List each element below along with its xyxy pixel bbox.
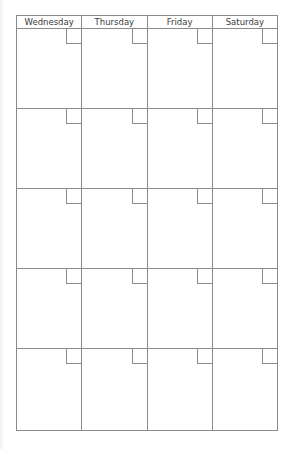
day-cell[interactable] — [17, 109, 82, 189]
week-row-5 — [17, 349, 278, 431]
day-cell[interactable] — [212, 109, 277, 189]
date-number-box[interactable] — [197, 189, 212, 204]
day-header-saturday: Saturday — [212, 16, 277, 29]
date-number-box[interactable] — [132, 109, 147, 124]
date-number-box[interactable] — [262, 109, 277, 124]
day-cell[interactable] — [17, 269, 82, 349]
date-number-box[interactable] — [66, 269, 81, 284]
week-row-4 — [17, 269, 278, 349]
day-cell[interactable] — [82, 109, 147, 189]
page-edge-shadow — [0, 0, 4, 449]
day-header-friday: Friday — [147, 16, 212, 29]
day-cell[interactable] — [147, 109, 212, 189]
day-cell[interactable] — [17, 349, 82, 431]
day-cell[interactable] — [147, 29, 212, 109]
day-cell[interactable] — [212, 349, 277, 431]
day-cell[interactable] — [17, 189, 82, 269]
date-number-box[interactable] — [197, 269, 212, 284]
week-row-2 — [17, 109, 278, 189]
date-number-box[interactable] — [66, 349, 81, 364]
day-cell[interactable] — [212, 269, 277, 349]
date-number-box[interactable] — [262, 269, 277, 284]
date-number-box[interactable] — [197, 29, 212, 44]
date-number-box[interactable] — [262, 349, 277, 364]
week-row-1 — [17, 29, 278, 109]
day-header-thursday: Thursday — [82, 16, 147, 29]
date-number-box[interactable] — [132, 189, 147, 204]
day-cell[interactable] — [82, 189, 147, 269]
day-cell[interactable] — [82, 29, 147, 109]
day-cell[interactable] — [82, 349, 147, 431]
date-number-box[interactable] — [197, 349, 212, 364]
day-cell[interactable] — [212, 29, 277, 109]
date-number-box[interactable] — [132, 349, 147, 364]
date-number-box[interactable] — [66, 29, 81, 44]
date-number-box[interactable] — [132, 29, 147, 44]
day-cell[interactable] — [147, 349, 212, 431]
week-row-3 — [17, 189, 278, 269]
date-number-box[interactable] — [262, 189, 277, 204]
day-header-row: Wednesday Thursday Friday Saturday — [17, 16, 278, 29]
day-cell[interactable] — [147, 189, 212, 269]
day-header-wednesday: Wednesday — [17, 16, 82, 29]
day-cell[interactable] — [17, 29, 82, 109]
date-number-box[interactable] — [132, 269, 147, 284]
date-number-box[interactable] — [262, 29, 277, 44]
date-number-box[interactable] — [197, 109, 212, 124]
day-cell[interactable] — [147, 269, 212, 349]
date-number-box[interactable] — [66, 109, 81, 124]
calendar-grid: Wednesday Thursday Friday Saturday — [16, 15, 278, 431]
day-cell[interactable] — [82, 269, 147, 349]
date-number-box[interactable] — [66, 189, 81, 204]
day-cell[interactable] — [212, 189, 277, 269]
